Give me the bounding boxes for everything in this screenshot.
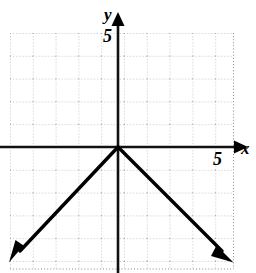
y-axis-label: y <box>104 6 112 23</box>
y-axis-arrowhead <box>112 12 125 26</box>
x-axis-label: x <box>241 140 250 157</box>
graph-figure: y x 5 5 <box>0 0 256 273</box>
x-axis-tick-label-5: 5 <box>213 150 222 168</box>
coordinate-plane <box>0 0 256 273</box>
y-axis-tick-label-5: 5 <box>103 27 112 45</box>
